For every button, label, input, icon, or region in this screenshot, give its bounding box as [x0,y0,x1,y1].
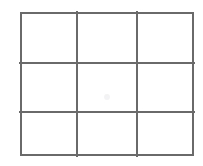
grid-cell-r1-c2[interactable] [77,12,137,63]
grid-cell-r2-c3[interactable] [137,63,194,112]
grid-svg [20,12,194,156]
grid-cell-layer [20,12,194,156]
grid-cell-r3-c3[interactable] [137,112,194,156]
grid-cell-r1-c1[interactable] [20,12,77,63]
grid-cell-r2-c1[interactable] [20,63,77,112]
grid-figure [20,12,194,156]
grid-cell-r2-c2[interactable] [77,63,137,112]
grid-cell-r3-c2[interactable] [77,112,137,156]
screenshot-canvas [0,0,203,166]
grid-cell-r1-c3[interactable] [137,12,194,63]
grid-cell-r3-c1[interactable] [20,112,77,156]
